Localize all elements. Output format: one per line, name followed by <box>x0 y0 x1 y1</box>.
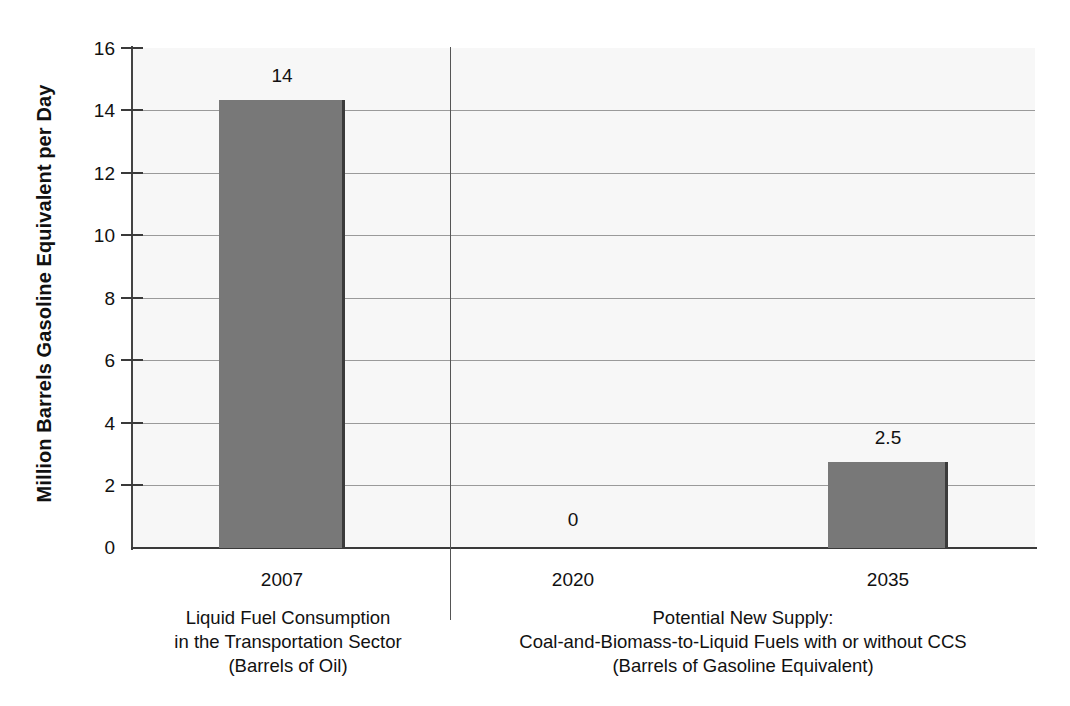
y-tick-mark-14 <box>121 109 143 111</box>
bar-value-label-2035: 2.5 <box>828 428 948 447</box>
category-label-2020: 2020 <box>510 570 636 589</box>
y-tick-mark-16 <box>121 47 143 49</box>
bar-value-label-2007: 14 <box>219 66 345 85</box>
section-divider-line <box>450 47 451 620</box>
bar-2007[interactable] <box>219 100 345 548</box>
y-tick-mark-2 <box>121 484 143 486</box>
group-caption-left-line2: in the Transportation Sector <box>138 630 438 654</box>
y-tick-label-2: 2 <box>61 476 115 495</box>
y-tick-mark-4 <box>121 422 143 424</box>
y-tick-mark-10 <box>121 234 143 236</box>
group-caption-left: Liquid Fuel Consumption in the Transport… <box>138 606 438 678</box>
bar-chart: Million Barrels Gasoline Equivalent per … <box>0 0 1070 706</box>
category-label-2035: 2035 <box>828 570 948 589</box>
y-tick-label-0: 0 <box>61 538 115 557</box>
gridline-16 <box>132 48 1035 49</box>
group-caption-right-line2: Coal-and-Biomass-to-Liquid Fuels with or… <box>460 630 1026 654</box>
bar-value-label-2020: 0 <box>510 510 636 529</box>
y-tick-label-6: 6 <box>61 351 115 370</box>
y-axis-tick-labels: 16 14 12 10 8 6 4 2 0 <box>50 0 115 706</box>
group-caption-right-line1: Potential New Supply: <box>460 606 1026 630</box>
group-caption-right: Potential New Supply: Coal-and-Biomass-t… <box>460 606 1026 678</box>
y-tick-label-14: 14 <box>61 101 115 120</box>
y-tick-label-4: 4 <box>61 414 115 433</box>
group-caption-left-line1: Liquid Fuel Consumption <box>138 606 438 630</box>
y-tick-mark-6 <box>121 359 143 361</box>
y-tick-mark-12 <box>121 172 143 174</box>
y-tick-label-8: 8 <box>61 289 115 308</box>
y-tick-label-12: 12 <box>61 164 115 183</box>
y-tick-mark-8 <box>121 297 143 299</box>
y-tick-label-16: 16 <box>61 39 115 58</box>
group-caption-right-line3: (Barrels of Gasoline Equivalent) <box>460 654 1026 678</box>
bar-2035[interactable] <box>828 462 948 548</box>
y-tick-label-10: 10 <box>61 226 115 245</box>
group-caption-left-line3: (Barrels of Oil) <box>138 654 438 678</box>
category-label-2007: 2007 <box>219 570 345 589</box>
